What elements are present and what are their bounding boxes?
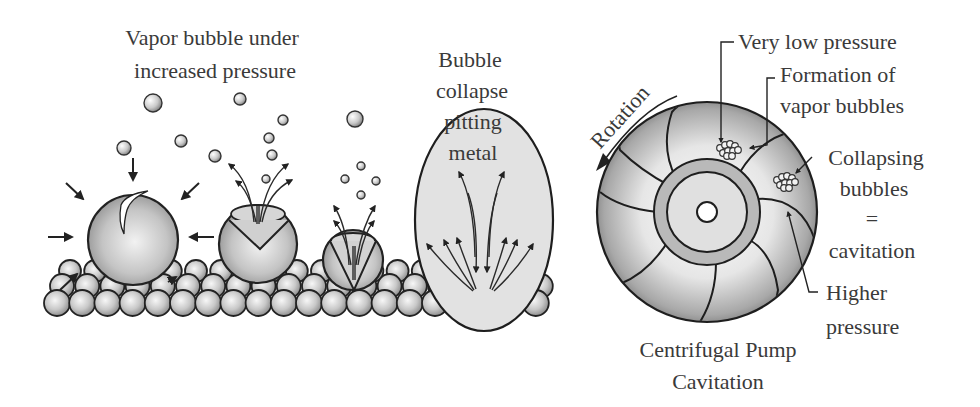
- vapor-bubble: [262, 175, 270, 183]
- impeller: [596, 98, 817, 322]
- very-low-pressure-label: Very low pressure: [738, 29, 897, 54]
- collapse-zone: Bubble collapse pitting metal: [415, 47, 553, 331]
- bubble-microjet: [323, 206, 383, 290]
- vapor-bubble: [278, 115, 288, 125]
- vapor-bubble: [267, 150, 277, 160]
- collapse-label-line-3: pitting: [444, 109, 501, 134]
- left-panel: Vapor bubble under increased pressure: [44, 25, 553, 331]
- equals-sign: =: [866, 206, 878, 231]
- metal-atom: [170, 290, 196, 316]
- metal-atom: [397, 290, 423, 316]
- metal-atom: [296, 290, 322, 316]
- metal-atom: [94, 290, 120, 316]
- caption-line-1: Centrifugal Pump: [639, 337, 796, 362]
- floating-vapor-bubbles: [117, 93, 380, 199]
- metal-atom: [44, 290, 70, 316]
- metal-atom: [145, 290, 171, 316]
- collapse-label-line-2: collapse: [436, 78, 508, 103]
- vapor-bubble: [264, 133, 274, 143]
- vapor-bubble: [372, 177, 380, 185]
- higher-pressure-label-line-1: Higher: [826, 280, 888, 305]
- vapor-bubble: [357, 191, 365, 199]
- collapsing-label-line-2: bubbles: [840, 176, 908, 201]
- cavitation-diagram: Vapor bubble under increased pressure: [0, 0, 980, 407]
- formation-label-line-2: vapor bubbles: [780, 93, 904, 118]
- collapse-label-line-4: metal: [449, 140, 498, 165]
- bubble-imploding: [219, 164, 297, 283]
- vapor-bubble: [347, 111, 363, 127]
- title-line-2: increased pressure: [134, 58, 296, 83]
- collapse-label-line-1: Bubble: [438, 47, 502, 72]
- caption-line-2: Cavitation: [672, 369, 764, 394]
- impeller-eye: [697, 202, 717, 222]
- metal-atom: [346, 290, 372, 316]
- vapor-bubble: [117, 141, 131, 155]
- vapor-bubble: [175, 135, 187, 147]
- vapor-bubble: [341, 175, 349, 183]
- metal-atom: [246, 290, 272, 316]
- metal-atom: [220, 290, 246, 316]
- title-line-1: Vapor bubble under: [125, 25, 299, 50]
- metal-atom: [372, 290, 398, 316]
- formation-label-line-1: Formation of: [780, 62, 896, 87]
- vapor-bubble: [234, 93, 246, 105]
- metal-atom: [69, 290, 95, 316]
- metal-atom: [321, 290, 347, 316]
- metal-atom: [271, 290, 297, 316]
- right-panel: Rotation: [585, 29, 924, 394]
- vapor-bubble: [144, 94, 162, 112]
- metal-atom: [195, 290, 221, 316]
- collapsing-label-line-1: Collapsing: [828, 145, 923, 170]
- metal-atom: [120, 290, 146, 316]
- higher-pressure-label-line-2: pressure: [826, 314, 899, 339]
- vapor-bubble: [209, 150, 221, 162]
- cavitation-label: cavitation: [829, 238, 916, 263]
- vapor-bubble: [357, 162, 365, 170]
